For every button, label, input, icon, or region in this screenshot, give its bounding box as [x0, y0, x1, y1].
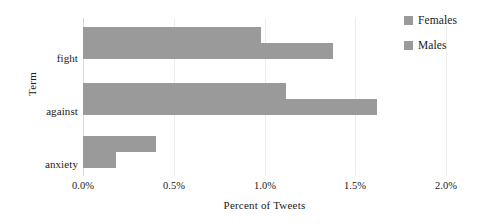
x-axis-title: Percent of Tweets [83, 199, 446, 211]
bar-anxiety-males[interactable] [83, 152, 116, 168]
legend-item-females[interactable]: Females [404, 14, 490, 26]
bar-group-against [83, 83, 446, 123]
legend-swatch-icon-males [404, 41, 413, 50]
y-tick-label-against: against [22, 105, 78, 117]
x-axis-tick-labels: 0.0% 0.5% 1.0% 1.5% 2.0% [83, 180, 446, 196]
x-tick-label-0: 0.0% [53, 180, 113, 191]
legend-swatch-icon-females [404, 16, 413, 25]
y-axis-category-labels: fight against anxiety [22, 18, 78, 176]
x-tick-label-1: 0.5% [144, 180, 204, 191]
legend-label-males: Males [418, 39, 447, 51]
legend: Females Males [404, 14, 490, 64]
y-tick-label-fight: fight [22, 52, 78, 64]
plot-area [83, 18, 446, 176]
bar-anxiety-females[interactable] [83, 136, 156, 152]
bar-fight-males[interactable] [83, 43, 333, 59]
x-tick-label-3: 1.5% [325, 180, 385, 191]
bar-group-anxiety [83, 136, 446, 176]
bar-fight-females[interactable] [83, 27, 261, 43]
x-tick-label-2: 1.0% [235, 180, 295, 191]
bar-chart-figure: Term fight against anxiety 0.0% 0.5% [0, 0, 492, 224]
y-tick-label-anxiety: anxiety [22, 158, 78, 170]
bar-against-males[interactable] [83, 99, 377, 115]
legend-item-males[interactable]: Males [404, 39, 490, 51]
bar-against-females[interactable] [83, 83, 286, 99]
bar-group-fight [83, 27, 446, 67]
legend-label-females: Females [418, 14, 457, 26]
x-tick-label-4: 2.0% [416, 180, 476, 191]
